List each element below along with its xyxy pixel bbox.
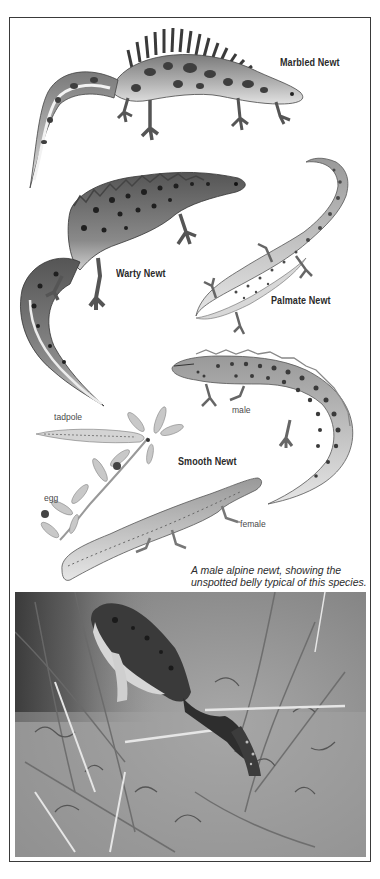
smooth-newt-male-illustration [172,350,353,504]
caption-line-1: A male alpine newt, showing the [191,564,367,576]
marbled-newt-illustration [30,28,303,188]
tadpole-label: tadpole [54,411,82,422]
female-label: female [240,518,266,529]
palmate-newt-label: Palmate Newt [271,295,331,306]
photo-caption: A male alpine newt, showing the unspotte… [191,564,367,588]
smooth-newt-label: Smooth Newt [178,456,237,467]
warty-newt-label: Warty Newt [116,268,166,279]
male-label: male [232,404,251,415]
egg-label: egg [44,492,58,503]
caption-line-2: unspotted belly typical of this species. [191,576,367,588]
marbled-newt-label: Marbled Newt [280,57,340,68]
alpine-newt-photo [15,592,366,857]
